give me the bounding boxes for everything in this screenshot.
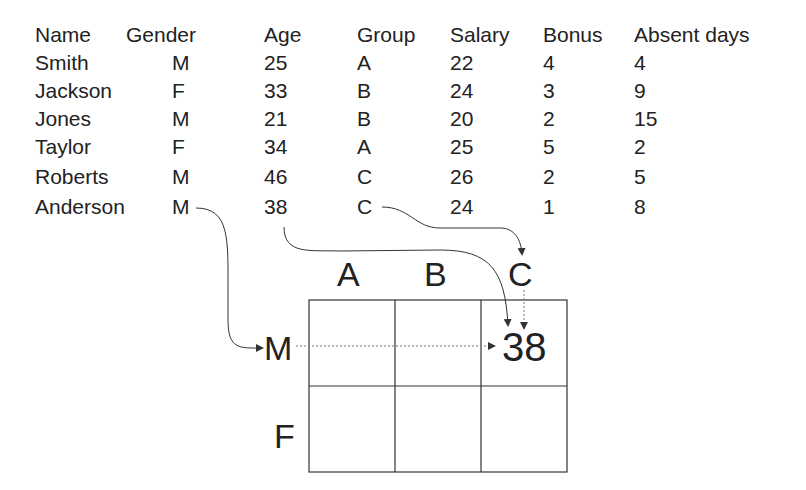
age-arrow bbox=[284, 227, 508, 325]
pivot-diagram bbox=[0, 0, 806, 490]
row-label-m: M bbox=[264, 330, 292, 366]
group-arrow bbox=[382, 207, 522, 254]
gender-arrow bbox=[196, 208, 262, 348]
column-label-b: B bbox=[424, 256, 447, 292]
column-label-a: A bbox=[337, 256, 360, 292]
cell-value: 38 bbox=[502, 326, 547, 368]
row-label-f: F bbox=[274, 418, 295, 454]
column-label-c: C bbox=[508, 256, 533, 292]
